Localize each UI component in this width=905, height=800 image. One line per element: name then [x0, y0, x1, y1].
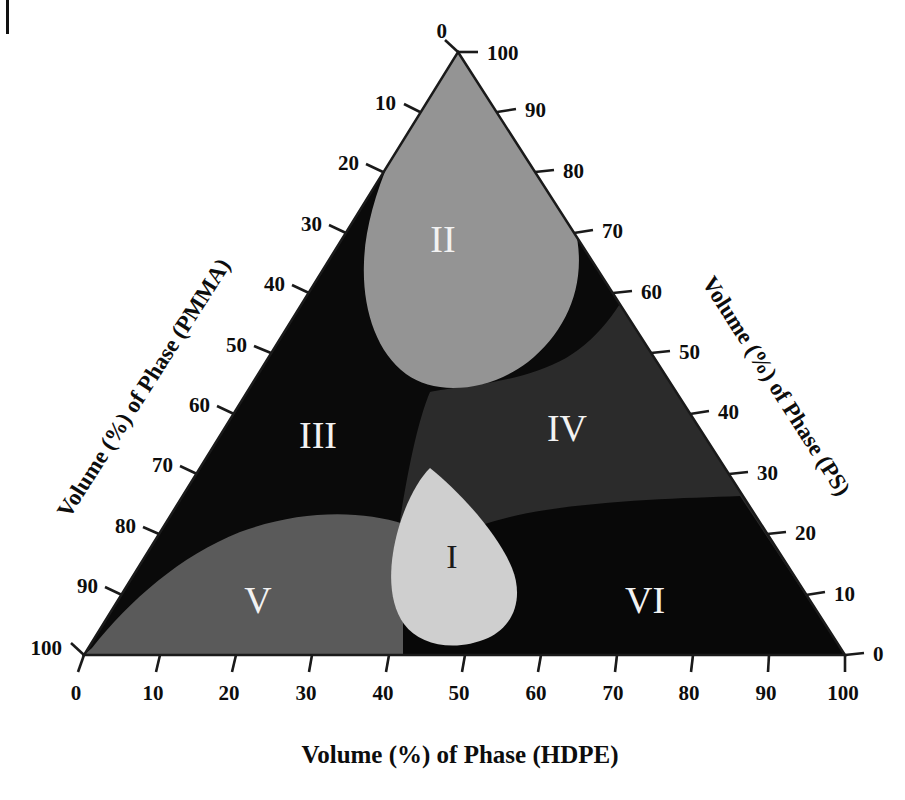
- svg-text:80: 80: [563, 159, 584, 183]
- svg-text:40: 40: [264, 272, 285, 296]
- svg-text:0: 0: [873, 642, 884, 666]
- svg-text:80: 80: [679, 681, 700, 705]
- svg-text:90: 90: [77, 574, 98, 598]
- svg-text:100: 100: [31, 636, 63, 660]
- svg-text:20: 20: [795, 521, 816, 545]
- region-label-4: IV: [547, 407, 588, 449]
- svg-text:20: 20: [219, 681, 240, 705]
- svg-text:90: 90: [756, 681, 777, 705]
- svg-text:50: 50: [679, 340, 700, 364]
- diagram-canvas: II III IV V VI I 0 10 20 30 40 50 60: [0, 0, 905, 800]
- region-2-shape: [364, 48, 579, 388]
- ternary-phase-diagram-figure: II III IV V VI I 0 10 20 30 40 50 60: [0, 0, 905, 800]
- page-margin-rule: [6, 0, 9, 34]
- svg-text:0: 0: [437, 19, 448, 43]
- svg-text:90: 90: [525, 98, 546, 122]
- bottom-axis-tick-labels: 0 10 20 30 40 50 60 70 80 90 100: [71, 681, 859, 705]
- region-label-2: II: [430, 218, 455, 260]
- region-fill-group: [84, 48, 845, 655]
- svg-text:100: 100: [487, 41, 519, 65]
- svg-text:10: 10: [375, 91, 396, 115]
- svg-text:0: 0: [71, 681, 82, 705]
- region-label-5: V: [244, 579, 272, 621]
- svg-text:70: 70: [603, 681, 624, 705]
- svg-text:30: 30: [757, 461, 778, 485]
- svg-text:60: 60: [526, 681, 547, 705]
- svg-text:60: 60: [641, 280, 662, 304]
- svg-text:70: 70: [152, 453, 173, 477]
- bottom-axis-title: Volume (%) of Phase (HDPE): [301, 741, 618, 769]
- svg-text:40: 40: [718, 400, 739, 424]
- svg-text:50: 50: [449, 681, 470, 705]
- svg-text:80: 80: [115, 514, 136, 538]
- svg-text:20: 20: [338, 151, 359, 175]
- svg-text:50: 50: [226, 333, 247, 357]
- region-label-3: III: [299, 414, 337, 456]
- svg-text:30: 30: [296, 681, 317, 705]
- svg-text:30: 30: [301, 212, 322, 236]
- svg-text:60: 60: [189, 393, 210, 417]
- svg-text:70: 70: [602, 219, 623, 243]
- region-label-1: I: [446, 538, 457, 575]
- bottom-axis-ticks: [78, 655, 845, 672]
- svg-text:10: 10: [834, 582, 855, 606]
- svg-text:100: 100: [827, 681, 859, 705]
- region-label-6: VI: [625, 579, 665, 621]
- svg-text:10: 10: [143, 681, 164, 705]
- svg-text:40: 40: [373, 681, 394, 705]
